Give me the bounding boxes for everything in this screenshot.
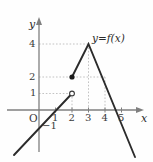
x-tick-label-1: 1 xyxy=(52,113,58,123)
origin-label: O xyxy=(29,113,38,124)
y-tick-label-4: 4 xyxy=(29,39,35,49)
y-axis-label: y xyxy=(29,19,35,30)
curve-branch-right xyxy=(72,44,135,157)
open-point-marker xyxy=(70,91,75,96)
function-graph-figure: y x O 4 2 1 −1 1 2 3 4 5 y=f(x) xyxy=(0,0,153,162)
x-tick-label-2: 2 xyxy=(69,113,75,123)
filled-point-marker xyxy=(69,74,74,79)
x-axis-label: x xyxy=(141,113,147,124)
curve-label: y=f(x) xyxy=(92,33,125,44)
x-tick-label-4: 4 xyxy=(102,113,108,123)
y-tick-label-2: 2 xyxy=(29,72,35,82)
x-tick-label-5: 5 xyxy=(118,113,124,123)
x-tick-label-3: 3 xyxy=(85,113,91,123)
y-axis-arrow xyxy=(36,17,42,25)
y-tick-label-1: 1 xyxy=(30,88,36,98)
graph-canvas xyxy=(0,0,153,162)
